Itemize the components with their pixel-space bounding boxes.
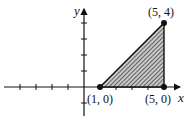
vertex-1-0 [97, 84, 103, 90]
coordinate-plane: y x (1, 0) (5, 0) (5, 4) [0, 0, 195, 121]
vertex-5-0 [161, 84, 167, 90]
y-axis-label: y [72, 3, 80, 18]
vertex-5-4 [161, 20, 167, 26]
x-axis-label: x [177, 90, 184, 105]
vertex-label-5-0: (5, 0) [145, 92, 171, 106]
vertex-label-5-4: (5, 4) [148, 5, 174, 19]
shaded-triangle-region [100, 23, 164, 87]
vertex-label-1-0: (1, 0) [87, 92, 113, 106]
